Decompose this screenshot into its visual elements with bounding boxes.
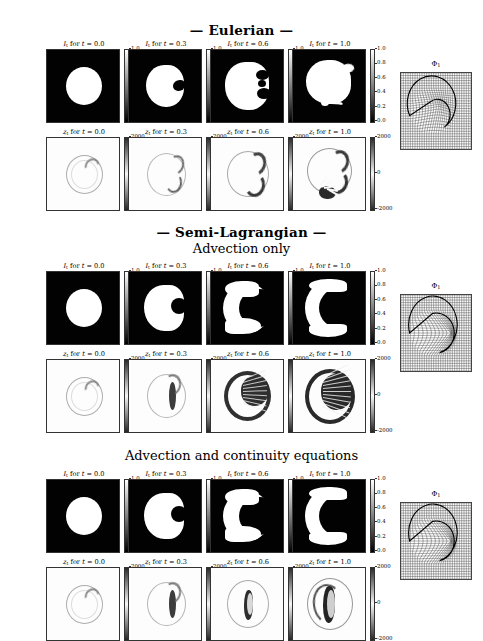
colorbar-tick-label: 0.0	[377, 118, 386, 123]
image-content	[293, 50, 365, 122]
image-axes	[292, 137, 366, 211]
panel-sl-cont-It-t1.0: It for t = 1.01.00.80.60.40.20.0	[292, 470, 390, 560]
image-axes	[128, 271, 202, 345]
colorbar-tick-label: -2000	[377, 428, 393, 433]
panel-sl-adv-zt-t1.0: zt for t = 1.020000-2000	[292, 350, 390, 440]
colorbar-tick-label: 0.4	[377, 89, 386, 94]
image-content	[129, 138, 201, 210]
colorbar-tick-label: 0.2	[377, 326, 386, 331]
image-content	[211, 138, 283, 210]
panel-sl-adv-It-t1.0: It for t = 1.01.00.80.60.40.20.0	[292, 262, 390, 352]
panel-title: zt for t = 1.0	[292, 350, 368, 358]
section-subtitle-semi-lagrangian-advection: Advection only	[0, 241, 483, 256]
image-content	[211, 360, 283, 432]
deformation-grid	[401, 295, 471, 371]
colorbar-tick-label: 2000	[377, 356, 391, 361]
image-content	[47, 568, 119, 640]
image-content	[47, 480, 119, 552]
panel-title: It for t = 0.3	[128, 470, 204, 478]
image-axes	[292, 567, 366, 641]
image-axes	[46, 359, 120, 433]
blob-shape	[225, 318, 261, 334]
blob-shape	[225, 526, 261, 542]
image-content	[211, 50, 283, 122]
colorbar-ticks: 1.00.80.60.40.20.0	[376, 271, 398, 345]
image-axes	[210, 271, 284, 345]
colorbar	[370, 479, 375, 553]
image-content	[211, 480, 283, 552]
image-axes	[210, 567, 284, 641]
panel-eulerian-zt-t1.0: zt for t = 1.020000-2000	[292, 128, 390, 218]
panel-title: It for t = 0.6	[210, 262, 286, 270]
section-subtitle-semi-lagrangian-continuity: Advection and continuity equations	[0, 448, 483, 463]
phi-axes	[400, 502, 472, 580]
image-axes	[292, 359, 366, 433]
colorbar-tick-label: 2000	[377, 134, 391, 139]
dent	[171, 298, 187, 314]
colorbar-ticks: 1.00.80.60.40.20.0	[376, 479, 398, 553]
colorbar-tick-label: 2000	[377, 564, 391, 569]
blob-shape	[66, 67, 102, 105]
colorbar-tick-label: 0.0	[377, 548, 386, 553]
image-content	[293, 360, 365, 432]
image-axes	[292, 271, 366, 345]
image-axes	[210, 479, 284, 553]
panel-title: It for t = 1.0	[292, 262, 368, 270]
panel-title: zt for t = 1.0	[292, 128, 368, 136]
image-axes	[46, 567, 120, 641]
colorbar-tick-label: 0.4	[377, 519, 386, 524]
panel-title: zt for t = 0.0	[46, 128, 122, 136]
colorbar	[370, 49, 375, 123]
dent	[171, 506, 187, 522]
image-axes	[46, 271, 120, 345]
panel-title: zt for t = 0.0	[46, 558, 122, 566]
image-content	[211, 272, 283, 344]
phi-panel-semi-lagrangian-continuity: Φ1	[400, 490, 472, 585]
phi-title: Φ1	[400, 490, 472, 498]
crescent-cut	[319, 287, 363, 329]
panel-title: It for t = 0.3	[128, 262, 204, 270]
colorbar-tick-label: 0.6	[377, 75, 386, 80]
panel-title: It for t = 0.0	[46, 470, 122, 478]
image-content	[293, 272, 365, 344]
image-axes	[46, 49, 120, 123]
blob-shape	[309, 487, 347, 500]
image-axes	[46, 137, 120, 211]
blob-shape	[66, 289, 102, 327]
image-axes	[210, 49, 284, 123]
figure-canvas: — Eulerian —It for t = 0.01.00.80.60.40.…	[0, 0, 483, 641]
panel-title: zt for t = 0.3	[128, 128, 204, 136]
image-axes	[210, 137, 284, 211]
blob-shape	[225, 489, 259, 505]
image-content	[129, 272, 201, 344]
image-content	[293, 568, 365, 640]
phi-panel-semi-lagrangian-advection: Φ1	[400, 282, 472, 377]
panel-title: zt for t = 0.6	[210, 558, 286, 566]
blob-shape	[309, 279, 347, 292]
panel-title: It for t = 0.0	[46, 262, 122, 270]
colorbar-tick-label: 0.6	[377, 505, 386, 510]
colorbar-tick-label: 1.0	[377, 46, 386, 51]
colorbar-tick-label: 0.8	[377, 490, 386, 495]
blob-shape	[309, 324, 347, 337]
panel-title: zt for t = 0.6	[210, 350, 286, 358]
phi-axes	[400, 72, 472, 150]
colorbar	[370, 359, 375, 433]
phi-panel-eulerian: Φ1	[400, 60, 472, 155]
section-title-semi-lagrangian-advection: — Semi-Lagrangian —	[0, 224, 483, 240]
colorbar-tick-label: 1.0	[377, 476, 386, 481]
section-title-eulerian: — Eulerian —	[0, 22, 483, 38]
colorbar-ticks: 1.00.80.60.40.20.0	[376, 49, 398, 123]
colorbar-tick-label: 0.4	[377, 311, 386, 316]
panel-title: It for t = 1.0	[292, 40, 368, 48]
deformation-grid	[401, 503, 471, 579]
colorbar	[370, 567, 375, 641]
panel-title: It for t = 0.6	[210, 470, 286, 478]
image-axes	[128, 567, 202, 641]
panel-title: zt for t = 0.0	[46, 350, 122, 358]
colorbar-tick-label: 0	[377, 170, 380, 175]
core-light	[247, 593, 253, 615]
phi-title: Φ1	[400, 60, 472, 68]
panel-title: zt for t = 1.0	[292, 558, 368, 566]
image-content	[47, 138, 119, 210]
